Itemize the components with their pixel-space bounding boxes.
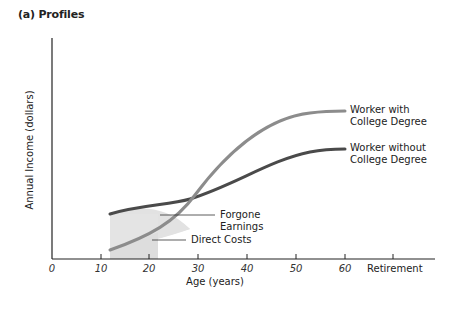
no-college-series-label: Worker without College Degree [350, 142, 427, 166]
forgone-earnings-label: Forgone Earnings [220, 209, 263, 233]
x-tick-60: 60 [339, 263, 352, 274]
x-tick-retirement: Retirement [367, 263, 423, 274]
no-college-label-line2: College Degree [350, 154, 427, 166]
x-axis-label: Age (years) [186, 276, 244, 287]
direct-costs-strip [110, 214, 158, 259]
x-tick-30: 30 [192, 263, 205, 274]
x-tick-10: 10 [95, 263, 108, 274]
forgone-label-line1: Forgone [220, 209, 263, 221]
direct-costs-label: Direct Costs [191, 234, 252, 246]
college-label-line1: Worker with [350, 104, 427, 116]
x-tick-40: 40 [241, 263, 254, 274]
x-tick-20: 20 [143, 263, 156, 274]
y-axis-label: Annual Income (dollars) [24, 90, 35, 209]
x-tick-50: 50 [290, 263, 303, 274]
no-college-label-line1: Worker without [350, 142, 427, 154]
forgone-label-line2: Earnings [220, 221, 263, 233]
college-series-label: Worker with College Degree [350, 104, 427, 128]
x-tick-0: 0 [49, 263, 55, 274]
college-label-line2: College Degree [350, 116, 427, 128]
